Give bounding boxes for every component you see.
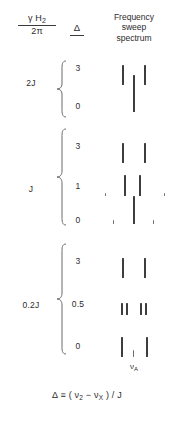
delta-value-2j-0: 0 xyxy=(64,101,92,111)
peak-line xyxy=(126,303,128,315)
spectrum-figure: γ H2 2π Δ Frequency sweep spectrum 2J 3 … xyxy=(0,0,174,429)
peak-tick xyxy=(133,350,134,357)
peak-line xyxy=(122,65,124,85)
group-label-02j: 0.2J xyxy=(8,300,54,310)
peak-line xyxy=(144,143,146,163)
peak-tick xyxy=(153,220,154,224)
spectrum-header-line-1: Frequency xyxy=(97,12,171,22)
delta-value-j-3: 3 xyxy=(64,141,92,151)
peak-tick xyxy=(164,193,165,196)
peak-line xyxy=(145,303,147,315)
delta-value-j-0: 0 xyxy=(64,215,92,225)
delta-column-header: Δ xyxy=(64,22,90,36)
field-header-denominator: 2π xyxy=(14,26,60,36)
field-header-numerator: γ H2 xyxy=(14,14,60,25)
peak-tick xyxy=(113,220,114,224)
spectrum-header-line-2: sweep xyxy=(97,22,171,32)
group-label-j: J xyxy=(8,184,54,194)
field-axis-header: γ H2 2π xyxy=(14,14,60,37)
peak-line xyxy=(121,337,123,357)
spectrum-header-line-3: spectrum xyxy=(97,33,171,43)
delta-value-02j-0: 0 xyxy=(64,341,92,351)
delta-header-underline xyxy=(70,35,84,36)
peak-line xyxy=(124,175,126,196)
delta-value-2j-3: 3 xyxy=(64,63,92,73)
peak-line xyxy=(121,303,123,315)
delta-value-j-1: 1 xyxy=(64,181,92,191)
caption-part-1: Δ ≡ ( ν xyxy=(52,390,79,400)
caption-part-3: ) / J xyxy=(103,390,122,400)
peak-line xyxy=(122,143,124,163)
peak-line xyxy=(133,75,135,112)
peak-line xyxy=(139,175,141,196)
figure-caption: Δ ≡ ( ν2 − νX ) / J xyxy=(0,390,174,401)
delta-header-label: Δ xyxy=(74,22,80,33)
peak-line xyxy=(122,258,124,278)
peak-line xyxy=(140,303,142,315)
spectrum-column-header: Frequency sweep spectrum xyxy=(97,12,171,43)
peak-line xyxy=(144,65,146,85)
delta-value-02j-3: 3 xyxy=(64,256,92,266)
delta-value-02j-05: 0.5 xyxy=(64,299,92,309)
nu-a-axis-label: νA xyxy=(122,362,146,372)
peak-line xyxy=(133,196,135,224)
group-label-2j: 2J xyxy=(8,78,54,88)
peak-tick xyxy=(105,193,106,196)
peak-line xyxy=(144,258,146,278)
peak-line xyxy=(146,337,148,357)
caption-part-2: − ν xyxy=(83,390,99,400)
